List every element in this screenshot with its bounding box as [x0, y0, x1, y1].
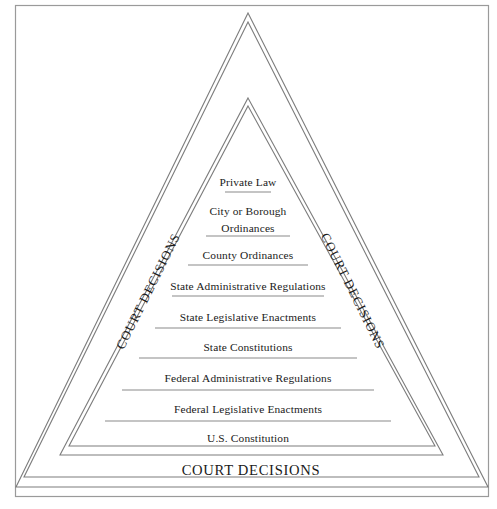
tier-label-3: County Ordinances: [203, 249, 294, 261]
tier-label-9: U.S. Constitution: [207, 432, 289, 444]
law-hierarchy-figure: Private Law City or Borough Ordinances C…: [0, 0, 497, 509]
tier-label-5: State Legislative Enactments: [180, 311, 317, 323]
tier-label-8: Federal Legislative Enactments: [174, 403, 323, 415]
tier-label-7: Federal Administrative Regulations: [164, 372, 331, 384]
tier-label-1: Private Law: [219, 176, 277, 188]
tier-label-2-line-1: City or Borough: [210, 205, 287, 217]
pyramid-svg: Private Law City or Borough Ordinances C…: [0, 0, 497, 509]
tier-label-4: State Administrative Regulations: [170, 280, 326, 292]
tier-label-2-line-2: Ordinances: [221, 222, 275, 234]
tier-label-6: State Constitutions: [203, 341, 293, 353]
base-label-court-decisions: COURT DECISIONS: [182, 462, 321, 478]
